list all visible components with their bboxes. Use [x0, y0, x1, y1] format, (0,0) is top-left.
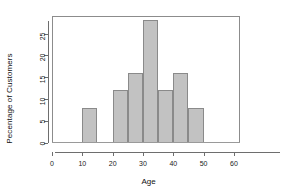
x-axis-tick-label: 10	[72, 160, 92, 167]
x-axis-tick-label: 40	[163, 160, 183, 167]
y-axis-tick-label: 25	[40, 32, 47, 40]
histogram-bar	[128, 73, 143, 143]
x-axis-tick-label: 60	[224, 160, 244, 167]
y-axis-tick-label: 10	[40, 98, 47, 106]
histogram-chart: 0510152025 Pecentage of Customers 010203…	[0, 0, 297, 196]
histogram-bar	[173, 73, 188, 143]
x-axis-line	[55, 152, 280, 153]
histogram-bar	[158, 90, 173, 143]
y-axis-title-text: Pecentage of Customers	[5, 53, 14, 143]
x-axis-tick-label: 20	[103, 160, 123, 167]
x-axis-tick	[113, 152, 114, 156]
x-axis-tick-label: 50	[194, 160, 214, 167]
histogram-bar	[188, 108, 203, 143]
bars-layer	[52, 16, 240, 143]
x-axis-tick-label: 30	[133, 160, 153, 167]
x-axis-tick	[143, 152, 144, 156]
y-axis-tick-label: 20	[40, 54, 47, 62]
histogram-bar	[113, 90, 128, 143]
y-axis-title: Pecentage of Customers	[3, 0, 15, 196]
y-axis-tick-label: 15	[40, 76, 47, 84]
x-axis-tick	[204, 152, 205, 156]
histogram-bar	[143, 20, 158, 143]
x-axis-tick	[234, 152, 235, 156]
x-axis-title: Age	[0, 177, 297, 186]
x-axis-tick-label: 0	[42, 160, 62, 167]
histogram-bar	[82, 108, 97, 143]
x-axis-tick	[52, 152, 53, 156]
y-axis-tick-label: 0	[40, 142, 47, 146]
x-axis-tick	[173, 152, 174, 156]
plot-baseline	[52, 142, 240, 143]
y-axis-tick-label: 5	[40, 120, 47, 124]
x-axis-tick	[82, 152, 83, 156]
y-axis-line	[48, 21, 49, 143]
